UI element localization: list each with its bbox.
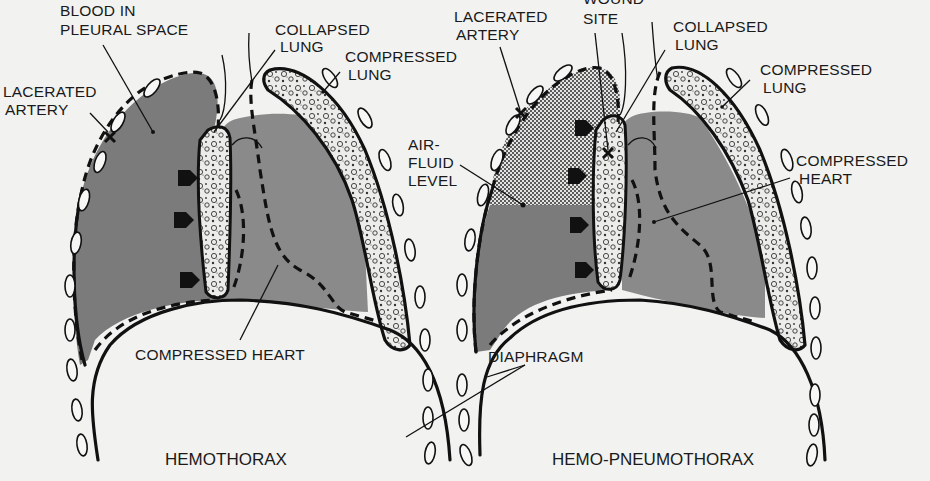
label-artery: ARTERY — [5, 101, 69, 118]
label-collapsed-lung-2: LUNG — [280, 38, 324, 55]
label-fluid: FLUID — [408, 154, 454, 171]
hemothorax-diagram-figure: BLOOD IN PLEURAL SPACE COLLAPSED LUNG CO… — [0, 0, 930, 481]
collapsed-lung-shape-right — [593, 116, 626, 289]
hemothorax-panel: BLOOD IN PLEURAL SPACE COLLAPSED LUNG CO… — [3, 2, 457, 469]
panel-title-hemo-pneumothorax: HEMO-PNEUMOTHORAX — [552, 450, 754, 469]
right-chest-wall-diaphragm — [480, 300, 825, 460]
label-diaphragm: DIAPHRAGM — [488, 348, 584, 365]
label-site: SITE — [583, 10, 618, 27]
label-artery-right: ARTERY — [456, 26, 520, 43]
label-blood-in: BLOOD IN — [60, 2, 136, 19]
label-lacerated-right: LACERATED — [454, 8, 548, 25]
label-compressed-lung-right-2: LUNG — [763, 79, 807, 96]
hemo-pneumothorax-panel: LACERATED ARTERY WOUND SITE COLLAPSED LU… — [406, 0, 908, 469]
label-air: AIR- — [408, 136, 440, 153]
blood-in-pleural-space-region — [73, 73, 220, 365]
label-pleural-space: PLEURAL SPACE — [60, 21, 188, 38]
panel-title-hemothorax: HEMOTHORAX — [165, 450, 287, 469]
label-compressed-heart-right-2: HEART — [799, 170, 853, 187]
fluid-region — [474, 205, 612, 352]
label-compressed-lung-right-1: COMPRESSED — [760, 61, 872, 78]
label-compressed-lung-1: COMPRESSED — [345, 48, 457, 65]
label-collapsed-lung-right-2: LUNG — [675, 36, 719, 53]
label-wound: WOUND — [583, 0, 644, 7]
label-collapsed-lung-right-1: COLLAPSED — [673, 18, 768, 35]
label-compressed-heart: COMPRESSED HEART — [135, 346, 305, 363]
label-level: LEVEL — [408, 172, 457, 189]
label-compressed-lung-2: LUNG — [348, 66, 392, 83]
label-lacerated: LACERATED — [3, 83, 97, 100]
label-compressed-heart-right-1: COMPRESSED — [796, 152, 908, 169]
collapsed-lung-shape — [198, 127, 230, 298]
label-collapsed-lung-1: COLLAPSED — [275, 21, 370, 38]
